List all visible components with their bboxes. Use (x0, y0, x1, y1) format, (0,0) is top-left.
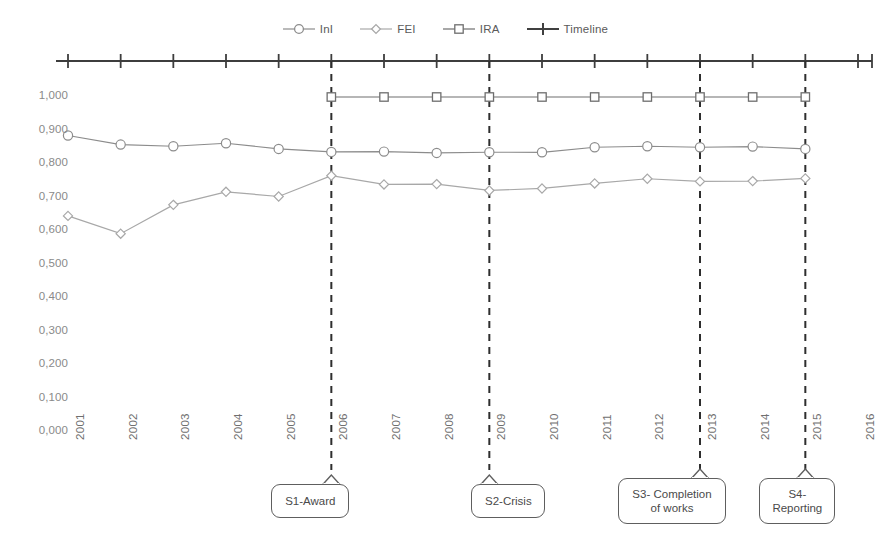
y-axis-tick-label: 0,700 (22, 190, 68, 202)
series-point-ira (432, 93, 440, 101)
series-point-fei (537, 184, 546, 193)
circle-marker-icon (282, 22, 316, 36)
x-axis-tick-label: 2009 (495, 413, 507, 440)
chart-plot-area (0, 0, 890, 555)
series-point-ira (801, 93, 809, 101)
x-axis-tick-label: 2005 (285, 413, 297, 440)
series-point-fei (63, 211, 72, 220)
x-axis-tick-label: 2003 (179, 413, 191, 440)
x-axis-tick-label: 2001 (74, 413, 86, 440)
series-point-fei (221, 187, 230, 196)
y-axis-tick-label: 0,900 (22, 123, 68, 135)
chart-root: InIFEIIRATimeline 0,0000,1000,2000,3000,… (0, 0, 890, 555)
x-axis-tick-label: 2004 (232, 413, 244, 440)
x-axis-tick-label: 2011 (601, 414, 613, 440)
legend-label: Timeline (564, 23, 609, 35)
series-point-ini (590, 143, 599, 152)
series-point-fei (590, 179, 599, 188)
y-axis-tick-label: 0,300 (22, 324, 68, 336)
series-point-ira (643, 93, 651, 101)
series-point-ira (748, 93, 756, 101)
chart-legend: InIFEIIRATimeline (0, 20, 890, 38)
x-axis-tick-label: 2008 (443, 413, 455, 440)
diamond-marker-icon (359, 22, 393, 36)
series-point-fei (695, 177, 704, 186)
series-point-fei (274, 192, 283, 201)
annotation-callout-label: S1-Award (285, 494, 335, 508)
series-point-ira (327, 93, 335, 101)
series-point-fei (379, 180, 388, 189)
x-axis-tick-label: 2007 (390, 413, 402, 440)
series-point-fei (432, 180, 441, 189)
series-point-ini (379, 147, 388, 156)
series-point-ini (327, 147, 336, 156)
legend-item-ini[interactable]: InI (282, 22, 333, 36)
series-point-fei (801, 174, 810, 183)
legend-item-ira[interactable]: IRA (442, 22, 500, 36)
y-axis-tick-label: 0,800 (22, 156, 68, 168)
x-axis-tick-label: 2015 (811, 413, 823, 440)
plus-marker-icon (526, 22, 560, 36)
series-point-ini (695, 143, 704, 152)
series-point-ira (380, 93, 388, 101)
y-axis-tick-label: 0,100 (22, 391, 68, 403)
x-axis-tick-label: 2002 (127, 413, 139, 440)
y-axis-tick-label: 0,500 (22, 257, 68, 269)
x-axis-tick-label: 2013 (706, 413, 718, 440)
series-point-ira (538, 93, 546, 101)
y-axis-tick-label: 0,000 (22, 424, 68, 436)
square-marker-icon (442, 22, 476, 36)
series-point-ini (169, 142, 178, 151)
x-axis-tick-label: 2014 (759, 413, 771, 440)
series-point-ira (485, 93, 493, 101)
y-axis-tick-label: 0,600 (22, 223, 68, 235)
annotation-callout: S3- Completion of works (618, 478, 726, 524)
series-point-fei (643, 174, 652, 183)
legend-label: InI (320, 23, 333, 35)
series-point-ini (537, 148, 546, 157)
series-point-fei (485, 186, 494, 195)
series-point-fei (327, 171, 336, 180)
y-axis-tick-label: 0,200 (22, 357, 68, 369)
series-point-ini (274, 144, 283, 153)
legend-label: IRA (480, 23, 500, 35)
annotation-callout: S2-Crisis (471, 484, 545, 518)
legend-label: FEI (397, 23, 416, 35)
y-axis-tick-label: 0,400 (22, 290, 68, 302)
series-point-fei (169, 200, 178, 209)
annotation-callout: S1-Award (271, 484, 349, 518)
x-axis-tick-label: 2010 (548, 413, 560, 440)
y-axis-tick-label: 1,000 (22, 89, 68, 101)
series-point-ini (221, 139, 230, 148)
legend-item-timeline[interactable]: Timeline (526, 22, 609, 36)
series-point-fei (116, 229, 125, 238)
legend-item-fei[interactable]: FEI (359, 22, 416, 36)
series-point-ira (590, 93, 598, 101)
series-point-ini (748, 142, 757, 151)
series-point-ini (116, 140, 125, 149)
annotation-callout-label: S4- Reporting (772, 487, 822, 515)
x-axis-tick-label: 2016 (864, 413, 876, 440)
annotation-callout-label: S2-Crisis (485, 494, 532, 508)
x-axis-tick-label: 2012 (653, 413, 665, 440)
annotation-callout: S4- Reporting (759, 478, 835, 524)
series-point-ini (432, 148, 441, 157)
series-point-ini (801, 144, 810, 153)
series-point-fei (748, 176, 757, 185)
annotation-callout-label: S3- Completion of works (632, 487, 711, 515)
series-point-ira (696, 93, 704, 101)
series-point-ini (643, 142, 652, 151)
x-axis-tick-label: 2006 (337, 413, 349, 440)
series-point-ini (485, 148, 494, 157)
